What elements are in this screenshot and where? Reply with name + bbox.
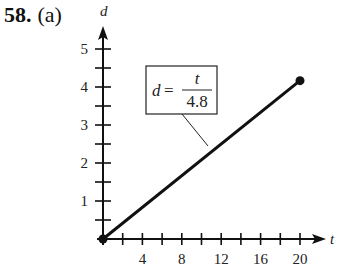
x-tick-label: 20 [293, 251, 308, 267]
x-tick-label: 4 [139, 251, 147, 267]
y-tick-label: 4 [81, 79, 89, 95]
y-tick-label: 3 [81, 117, 89, 133]
x-tick-label: 8 [178, 251, 186, 267]
annotation-leader-line [182, 114, 208, 146]
start-point [99, 235, 108, 244]
chart: td4812162012345d=t4.8 [0, 0, 337, 270]
equation-lhs: d [152, 81, 161, 100]
x-tick-label: 16 [253, 251, 269, 267]
equation-equals: = [164, 81, 174, 100]
y-tick-label: 2 [81, 155, 89, 171]
y-tick-label: 5 [81, 41, 89, 57]
y-tick-label: 1 [81, 193, 89, 209]
equation-denominator: 4.8 [186, 92, 207, 111]
y-axis-label: d [100, 3, 108, 19]
x-tick-label: 12 [214, 251, 229, 267]
x-axis-label: t [330, 231, 335, 247]
end-point [296, 76, 305, 85]
